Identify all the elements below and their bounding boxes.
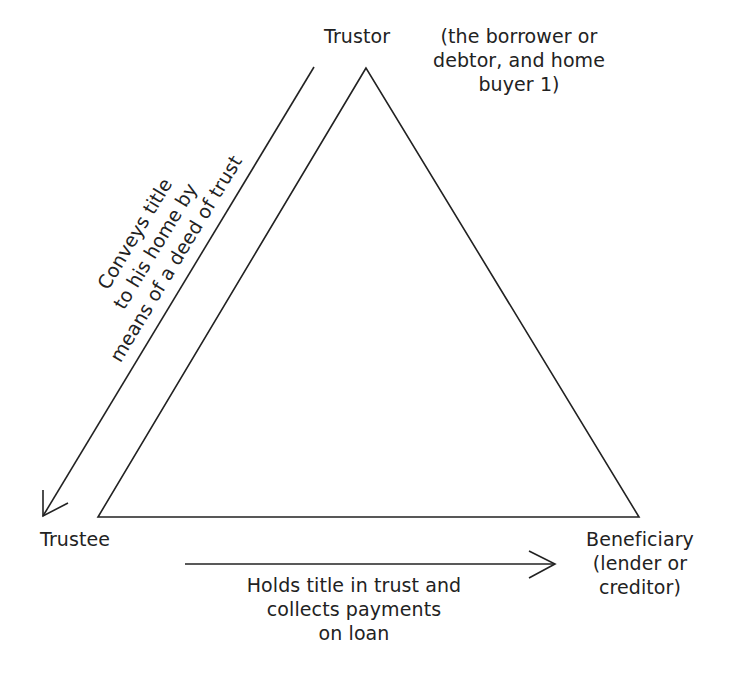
convey-arrow-shaft — [43, 67, 314, 516]
holds-title-caption-line: Holds title in trust and — [213, 573, 495, 597]
trustor-note-line: (the borrower or — [424, 24, 614, 48]
trustor-label: Trustor — [324, 24, 390, 48]
trustor-note-line: debtor, and home — [424, 48, 614, 72]
beneficiary-line: creditor) — [578, 575, 702, 599]
trustee-label: Trustee — [40, 527, 110, 551]
beneficiary-line: (lender or — [578, 551, 702, 575]
beneficiary-label: Beneficiary (lender or creditor) — [578, 527, 702, 599]
convey-arrow — [43, 67, 314, 516]
holds-title-caption-line: collects payments — [213, 597, 495, 621]
trustor-note-line: buyer 1) — [424, 72, 614, 96]
holds-title-caption-line: on loan — [213, 621, 495, 645]
trustor-note: (the borrower or debtor, and home buyer … — [424, 24, 614, 96]
beneficiary-line: Beneficiary — [578, 527, 702, 551]
holds-title-caption: Holds title in trust and collects paymen… — [213, 573, 495, 645]
